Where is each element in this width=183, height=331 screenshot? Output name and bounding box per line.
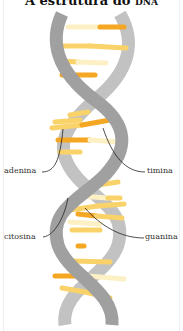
label-guanina: guanina	[145, 232, 178, 241]
label-adenina: adenina	[4, 166, 36, 175]
label-citosina: citosina	[4, 232, 36, 241]
label-timina: timina	[147, 166, 173, 175]
